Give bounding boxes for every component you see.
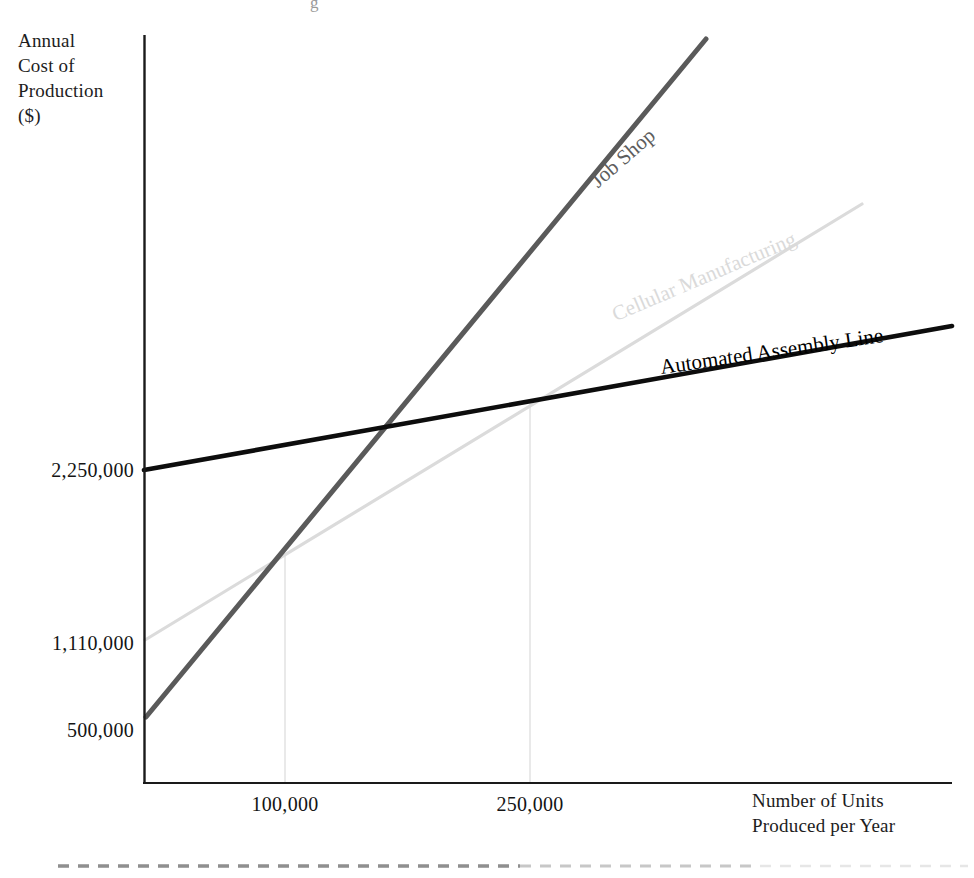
axis-lines [143, 35, 952, 784]
chart-canvas: g [0, 0, 974, 878]
x-axis-title: Number of UnitsProduced per Year [752, 788, 967, 838]
x-axis-tick-label-100000: 100,000 [210, 793, 360, 816]
series-line-cellular-manufacturing[interactable] [145, 204, 862, 640]
y-axis-tick-label-500000: 500,000 [16, 719, 134, 742]
y-axis-title: AnnualCost ofProduction($) [18, 28, 138, 128]
droplines [285, 400, 530, 783]
chart-page: g AnnualCost ofProduction($) Number of U… [0, 0, 974, 878]
y-axis-tick-label-2250000: 2,250,000 [16, 459, 134, 482]
clipped-caption-glyph: g [310, 0, 319, 12]
x-axis-tick-label-250000: 250,000 [455, 793, 605, 816]
y-axis-tick-label-1110000: 1,110,000 [16, 632, 134, 655]
